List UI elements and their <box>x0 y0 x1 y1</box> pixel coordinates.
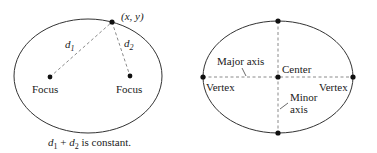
major-axis-leader <box>242 68 246 76</box>
vertex-right-label: Vertex <box>319 81 348 93</box>
d1-segment <box>50 22 112 77</box>
focus-right-dot <box>128 74 133 79</box>
caption: d1 + d2 is constant. <box>48 136 131 151</box>
d1-label: d1 <box>65 38 75 53</box>
co-vertex-bottom-dot <box>275 130 280 135</box>
center-label: Center <box>282 63 312 75</box>
right-ellipse-diagram: Major axis Center Vertex Vertex Minor ax… <box>200 18 355 135</box>
left-ellipse-diagram: (x, y) d1 d2 Focus Focus d1 + d2 is cons… <box>14 10 162 151</box>
vertex-left-label: Vertex <box>206 81 235 93</box>
co-vertex-top-dot <box>275 18 280 23</box>
d2-segment <box>112 22 130 76</box>
left-ellipse <box>14 19 162 133</box>
d2-label: d2 <box>124 37 134 52</box>
ellipse-diagrams: (x, y) d1 d2 Focus Focus d1 + d2 is cons… <box>0 0 377 153</box>
center-dot <box>275 74 280 79</box>
point-label: (x, y) <box>121 10 144 23</box>
focus-left-dot <box>48 75 53 80</box>
vertex-left-dot <box>200 74 205 79</box>
focus-right-label: Focus <box>116 83 142 95</box>
focus-left-label: Focus <box>32 83 58 95</box>
vertex-right-dot <box>350 74 355 79</box>
minor-axis-leader <box>280 103 288 109</box>
point-on-ellipse-dot <box>109 19 114 24</box>
minor-axis-label-line1: Minor <box>290 91 318 103</box>
major-axis-label: Major axis <box>217 55 264 67</box>
minor-axis-label-line2: axis <box>290 103 308 115</box>
